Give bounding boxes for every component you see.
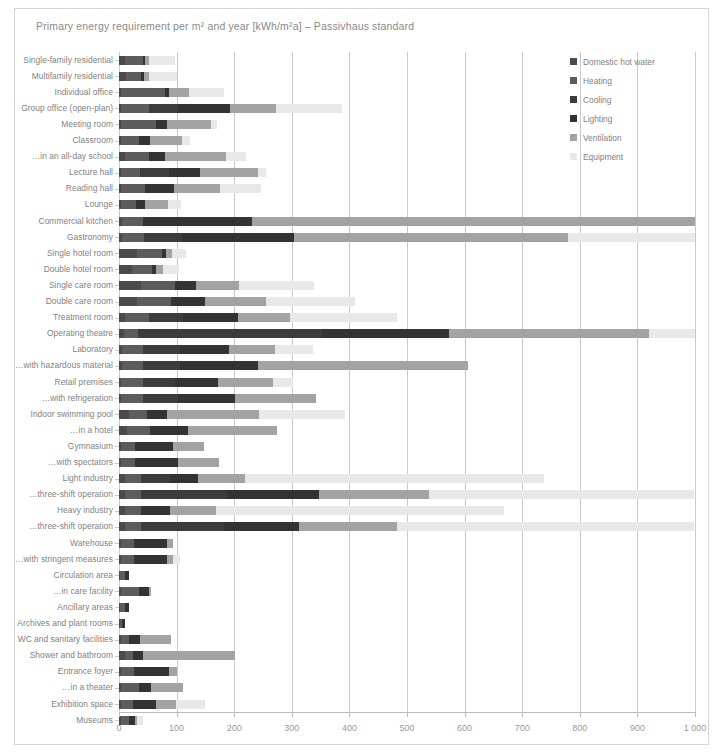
y-tick [115,527,119,528]
x-tick-800 [580,712,581,717]
y-axis-label: Indoor swimming pool [0,409,113,419]
bar-segment [134,555,167,564]
bar-segment [147,410,167,419]
y-axis-label: …three-shift operation [0,489,113,499]
bar-segment [140,635,172,644]
y-axis-label: Laboratory [0,344,113,354]
bar-23 [119,426,277,435]
bar-segment [139,136,151,145]
bar-10 [119,217,695,226]
y-axis-label: Museums [0,715,113,725]
y-axis-labels: Single-family residentialMultifamily res… [0,52,113,712]
y-tick [115,511,119,512]
bar-segment [429,490,694,499]
legend-item-ventilation[interactable]: Ventilation [570,128,705,147]
bar-segment [176,700,205,709]
bar-segment [121,104,149,113]
y-tick [115,253,119,254]
chart-legend: Domestic hot waterHeatingCoolingLighting… [570,52,705,166]
x-tick-100 [177,712,178,717]
legend-item-cooling[interactable]: Cooling [570,90,705,109]
legend-item-equipment[interactable]: Equipment [570,147,705,166]
bar-segment [141,506,170,515]
bar-segment [121,136,138,145]
y-tick [115,173,119,174]
bar-segment [174,184,220,193]
legend-label: Lighting [583,114,612,124]
bar-6 [119,152,246,161]
bar-segment [252,217,695,226]
bar-segment [568,233,695,242]
bar-segment [235,394,316,403]
y-tick [115,463,119,464]
bar-segment [182,233,294,242]
bar-segment [238,313,290,322]
bar-segment [175,378,218,387]
bar-25 [119,458,219,467]
legend-item-heating[interactable]: Heating [570,71,705,90]
y-axis-label: …with hazardous material [0,360,113,370]
bar-segment [121,555,134,564]
y-axis-label: Entrance foyer [0,666,113,676]
bar-segment [119,426,127,435]
y-axis-label: Double hotel room [0,264,113,274]
chart-title: Primary energy requirement per m² and ye… [36,20,414,32]
bar-segment [137,716,143,725]
legend-label: Heating [583,76,612,86]
y-tick [115,141,119,142]
bar-segment [143,378,175,387]
legend-swatch-icon [570,96,577,103]
bar-segment [143,217,252,226]
bar-segment [122,619,124,628]
bar-27 [119,490,694,499]
x-tick-label: 1 000 [684,723,707,733]
bar-segment [121,394,143,403]
y-axis-label: Lounge [0,199,113,209]
bar-segment [133,651,143,660]
legend-item-domestic-hot-water[interactable]: Domestic hot water [570,52,705,71]
y-axis-label: Single care room [0,280,113,290]
bar-segment [224,522,299,531]
bar-segment [121,587,138,596]
bar-segment [139,587,149,596]
bar-segment [124,329,138,338]
bar-1 [119,72,177,81]
bar-4 [119,120,217,129]
bar-segment [137,249,161,258]
y-axis-label: Operating theatre [0,328,113,338]
bar-segment [121,184,145,193]
bar-segment [145,200,168,209]
bar-segment [276,104,342,113]
bar-segment [220,184,260,193]
bar-segment [125,571,130,580]
bar-30 [119,539,173,548]
bar-segment [129,410,146,419]
y-axis-label: Single hotel room [0,248,113,258]
bar-segment [163,265,179,274]
bar-segment [125,313,149,322]
y-axis-label: …in a hotel [0,425,113,435]
x-tick-label: 400 [342,723,357,733]
y-axis-label: …with refrigeration [0,393,113,403]
bar-36 [119,635,171,644]
y-axis-label: Single-family residential [0,55,113,65]
bar-segment [397,522,694,531]
bar-segment [143,394,178,403]
bar-segment [205,297,265,306]
x-tick-0 [119,712,120,717]
x-tick-label: 900 [630,723,645,733]
bar-segment [319,490,428,499]
y-tick [115,189,119,190]
bar-segment [144,233,181,242]
bar-segment [649,329,695,338]
y-tick [115,656,119,657]
legend-item-lighting[interactable]: Lighting [570,109,705,128]
bar-8 [119,184,261,193]
bar-21 [119,394,316,403]
bar-segment [156,700,176,709]
y-axis-label: …in a theater [0,682,113,692]
bar-segment [140,168,169,177]
bar-segment [121,667,134,676]
bar-segment [136,200,145,209]
y-tick [115,269,119,270]
